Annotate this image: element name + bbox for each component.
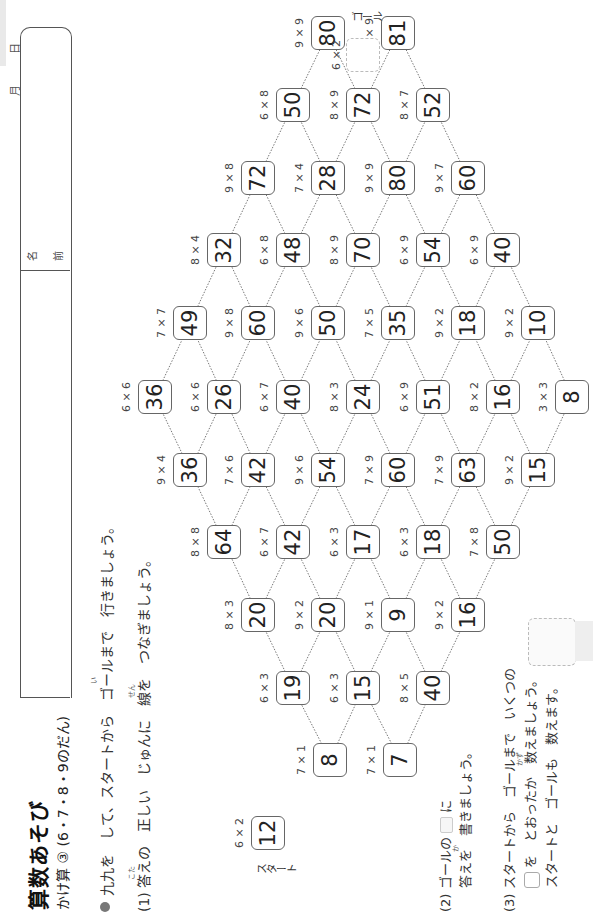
page-edge-shadow [575, 621, 593, 661]
cell-value: 20 [316, 602, 340, 629]
cell-expression: 6 × 3 [398, 527, 411, 557]
maze-cell[interactable]: 20 [311, 598, 345, 632]
cell-expression: 6 × 9 [468, 235, 481, 265]
maze-cell[interactable]: 15 [521, 453, 555, 487]
maze-cell[interactable]: 15 [346, 671, 380, 705]
cell-expression: 8 × 2 [468, 382, 481, 412]
question-3-line3: スタートと ゴールも 数えます。 [542, 681, 561, 888]
cell-expression: 6 × 6 [120, 382, 133, 412]
goal-label: ゴール [352, 10, 382, 26]
maze-cell[interactable]: 42 [276, 525, 310, 559]
cell-expression: 6 × 3 [328, 673, 341, 703]
small-box-icon [440, 817, 453, 833]
maze-cell[interactable]: 19 [276, 671, 310, 705]
cell-value: 50 [491, 529, 515, 556]
cell-expression: 7 × 8 [468, 527, 481, 557]
maze-cell[interactable]: 8 [555, 380, 589, 414]
cell-expression: 6 × 7 [258, 382, 271, 412]
cell-expression: 8 × 3 [328, 382, 341, 412]
maze-cell[interactable]: 36 [138, 380, 172, 414]
maze-cell[interactable]: 8 [313, 743, 347, 777]
goal-answer-box[interactable] [346, 38, 380, 72]
maze-cell[interactable]: 40 [276, 380, 310, 414]
maze-cell[interactable]: 81 [381, 16, 415, 50]
cell-value: 9 [386, 608, 410, 621]
cell-value: 60 [386, 457, 410, 484]
goal-expression: 6 × 2 [330, 40, 343, 70]
count-answer-box[interactable] [528, 618, 576, 666]
maze-cell[interactable]: 35 [381, 306, 415, 340]
cell-value: 12 [256, 820, 280, 847]
maze-cell[interactable]: 32 [207, 233, 241, 267]
cell-value: 8 [560, 390, 584, 403]
maze-cell[interactable]: 70 [346, 233, 380, 267]
q3-ruby: かず [514, 752, 524, 766]
maze-cell[interactable]: 18 [451, 306, 485, 340]
cell-value: 70 [351, 237, 375, 264]
maze-cell[interactable]: 16 [451, 598, 485, 632]
maze-cell[interactable]: 20 [241, 598, 275, 632]
cell-value: 51 [421, 384, 445, 411]
maze-cell[interactable]: 50 [276, 88, 310, 122]
worksheet-page: 算数あそび かけ算 ③ (6・7・8・9のだん) 名 前 月 日 九九を して、… [0, 0, 593, 916]
maze-cell[interactable]: 24 [346, 380, 380, 414]
cell-expression: 8 × 5 [398, 673, 411, 703]
cell-value: 81 [386, 20, 410, 47]
cell-value: 63 [456, 457, 480, 484]
cell-value: 15 [526, 457, 550, 484]
maze-cell[interactable]: 60 [451, 161, 485, 195]
maze-cell[interactable]: 50 [311, 306, 345, 340]
maze-cell[interactable]: 50 [486, 525, 520, 559]
maze-cell[interactable]: 36 [173, 453, 207, 487]
cell-expression: 3 × 3 [537, 382, 550, 412]
cell-expression: 6 × 9 [398, 382, 411, 412]
cell-value: 15 [351, 675, 375, 702]
maze-cell[interactable]: 54 [311, 453, 345, 487]
maze-cell[interactable]: 72 [346, 88, 380, 122]
cell-value: 7 [388, 753, 412, 766]
cell-value: 54 [316, 457, 340, 484]
maze-cell[interactable]: 16 [486, 380, 520, 414]
cell-value: 52 [421, 92, 445, 119]
cell-expression: 8 × 7 [398, 90, 411, 120]
maze-cell[interactable]: 72 [241, 161, 275, 195]
cell-expression: 7 × 5 [363, 308, 376, 338]
q2-text-b: に [438, 800, 453, 813]
cell-value: 16 [491, 384, 515, 411]
maze-cell[interactable]: 52 [416, 88, 450, 122]
maze-cell[interactable]: 60 [241, 306, 275, 340]
cell-expression: 9 × 2 [503, 455, 516, 485]
maze-cell[interactable]: 42 [241, 453, 275, 487]
maze-cell[interactable]: 10 [521, 306, 555, 340]
maze-cell[interactable]: 64 [207, 525, 241, 559]
maze-cell[interactable]: 51 [416, 380, 450, 414]
maze-cell[interactable]: 40 [486, 233, 520, 267]
cell-expression: 8 × 4 [189, 235, 202, 265]
cell-expression: 6 × 8 [258, 235, 271, 265]
cell-expression: 6 × 6 [189, 382, 202, 412]
cell-expression: 9 × 2 [433, 600, 446, 630]
cell-expression: 7 × 1 [365, 745, 378, 775]
maze-cell[interactable]: 17 [346, 525, 380, 559]
cell-expression: 9 × 9 [363, 163, 376, 193]
cell-expression: 7 × 9 [433, 455, 446, 485]
maze-cell[interactable]: 12 [251, 816, 285, 850]
cell-expression: 9 × 1 [363, 600, 376, 630]
maze-cell[interactable]: 40 [416, 671, 450, 705]
cell-expression: 6 × 8 [258, 90, 271, 120]
maze-cell[interactable]: 7 [383, 743, 417, 777]
maze-cell[interactable]: 49 [173, 306, 207, 340]
cell-expression: 8 × 8 [189, 527, 202, 557]
maze-cell[interactable]: 54 [416, 233, 450, 267]
cell-value: 60 [246, 310, 270, 337]
maze-cell[interactable]: 48 [276, 233, 310, 267]
maze-cell[interactable]: 9 [381, 598, 415, 632]
maze-cell[interactable]: 80 [381, 161, 415, 195]
maze-cell[interactable]: 26 [207, 380, 241, 414]
cell-value: 18 [456, 310, 480, 337]
question-3-line1: (3) スタートから ゴールまで いくつの [500, 668, 519, 912]
maze-cell[interactable]: 63 [451, 453, 485, 487]
maze-cell[interactable]: 18 [416, 525, 450, 559]
maze-cell[interactable]: 28 [311, 161, 345, 195]
maze-cell[interactable]: 60 [381, 453, 415, 487]
